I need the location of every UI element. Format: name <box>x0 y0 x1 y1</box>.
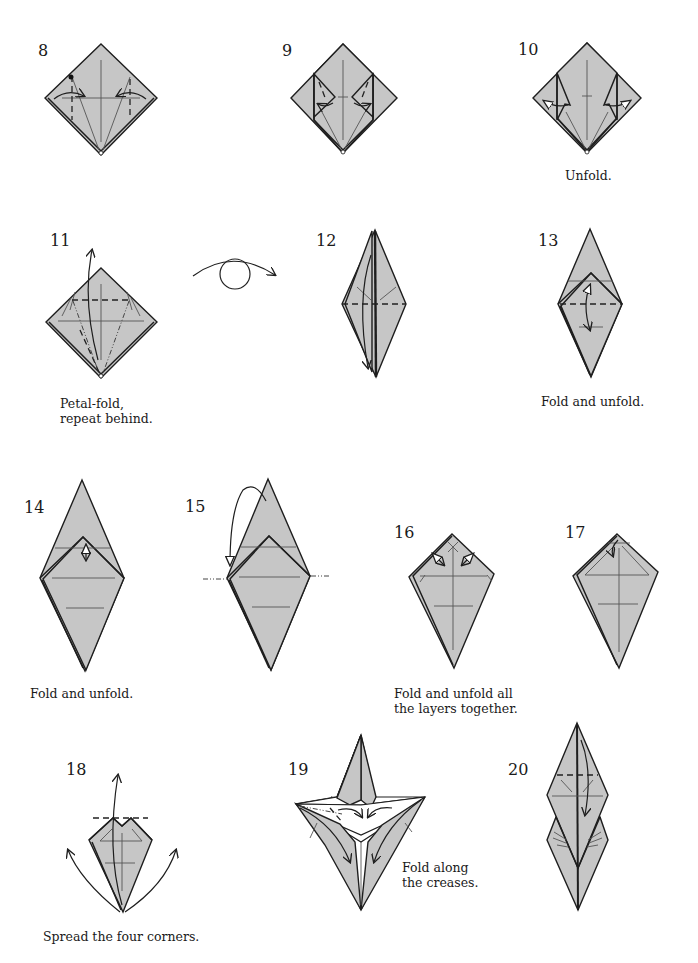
step-number: 11 <box>50 231 70 250</box>
step-number: 8 <box>38 41 48 60</box>
step-17: 17 <box>565 523 658 668</box>
step-caption-line-2: the creases. <box>402 875 478 890</box>
step-18: 18 Spread the four corners. <box>43 760 199 944</box>
step-number: 9 <box>282 41 292 60</box>
step-caption: Unfold. <box>565 168 612 183</box>
step-caption: Fold and unfold. <box>541 394 644 409</box>
step-8: 8 <box>38 41 157 155</box>
step-number: 18 <box>66 760 86 779</box>
step-caption: Fold and unfold. <box>30 686 133 701</box>
step-caption-line-1: Fold along <box>402 860 469 875</box>
step-caption-line-1: Fold and unfold all <box>394 686 513 701</box>
step-number: 16 <box>394 523 414 542</box>
step-16: 16 Fold and unfold all the layers togeth… <box>394 523 518 716</box>
step-number: 20 <box>508 760 528 779</box>
step-20: 20 <box>508 723 608 910</box>
step-19: 19 Fold along the creases. <box>288 735 478 910</box>
step-number: 10 <box>518 40 538 59</box>
step-caption-line-2: repeat behind. <box>60 411 153 426</box>
step-caption: Spread the four corners. <box>43 929 199 944</box>
step-13: 13 Fold and unfold. <box>538 229 644 409</box>
step-12: 12 <box>316 230 406 377</box>
step-11: 11 Petal-fold, repeat behind. <box>46 231 157 426</box>
step-number: 15 <box>185 497 205 516</box>
step-number: 12 <box>316 231 336 250</box>
turn-over-icon <box>193 259 275 289</box>
step-number: 14 <box>24 498 44 517</box>
step-10: 10 Unfold. <box>518 40 641 183</box>
step-14: 14 Fold and unfold. <box>24 480 133 701</box>
step-caption-line-1: Petal-fold, <box>60 396 124 411</box>
step-9: 9 <box>282 41 397 154</box>
step-number: 13 <box>538 231 558 250</box>
step-caption-line-2: the layers together. <box>394 701 518 716</box>
step-number: 19 <box>288 760 308 779</box>
step-15: 15 <box>185 479 330 670</box>
origami-diagram: 8 9 10 <box>0 0 698 963</box>
reference-dot <box>69 75 74 80</box>
step-number: 17 <box>565 523 585 542</box>
